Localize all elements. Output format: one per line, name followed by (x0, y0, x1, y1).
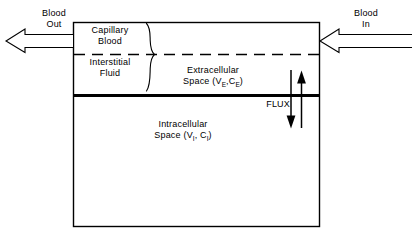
blood-out-label-line1: Blood (28, 8, 80, 19)
intracellular-space-label-line1: Intracellular (128, 119, 238, 130)
diagram-canvas: Blood Out Blood In Capillary Blood Inter… (0, 0, 419, 243)
intracellular-space-prefix: Space (V (154, 130, 193, 140)
extracellular-space-mid: ,C (226, 76, 235, 86)
capillary-blood-label: Capillary Blood (80, 25, 140, 47)
extracellular-space-label-line1: Extracellular (158, 65, 268, 76)
blood-in-label-line1: Blood (340, 8, 392, 19)
interstitial-fluid-label-line1: Interstitial (80, 57, 140, 68)
intracellular-space-suffix: ) (209, 130, 212, 140)
extracellular-space-label-line2: Space (VE,CE) (158, 76, 268, 90)
capillary-blood-label-line2: Blood (80, 36, 140, 47)
capillary-blood-label-line1: Capillary (80, 25, 140, 36)
intracellular-space-label-line2: Space (VI, CI) (128, 130, 238, 144)
extracellular-space-prefix: Space (V (183, 76, 222, 86)
blood-in-label: Blood In (340, 8, 392, 30)
interstitial-fluid-label-line2: Fluid (80, 68, 140, 79)
blood-out-label-line2: Out (28, 19, 80, 30)
extracellular-space-label: Extracellular Space (VE,CE) (158, 65, 268, 90)
intracellular-space-mid: , C (195, 130, 207, 140)
blood-out-label: Blood Out (28, 8, 80, 30)
intracellular-space-label: Intracellular Space (VI, CI) (128, 119, 238, 144)
blood-in-label-line2: In (340, 19, 392, 30)
interstitial-fluid-label: Interstitial Fluid (80, 57, 140, 79)
flux-label: FLUX (254, 99, 290, 110)
blood-in-arrow-icon (320, 29, 412, 53)
blood-out-arrow-icon (6, 29, 73, 53)
extracellular-space-suffix: ) (240, 76, 243, 86)
flux-up-arrow-icon (297, 71, 306, 129)
curly-brace-icon (147, 24, 155, 92)
